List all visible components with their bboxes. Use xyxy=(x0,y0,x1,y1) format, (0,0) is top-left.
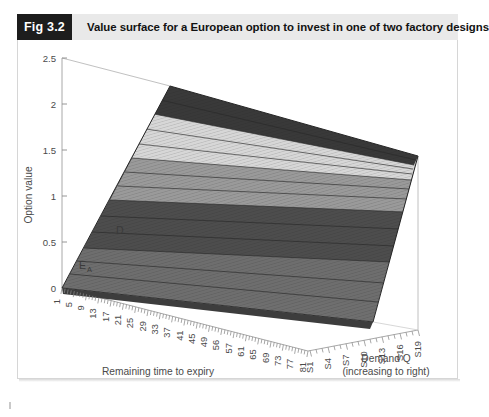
x-tick-1: 1 xyxy=(52,299,62,304)
annotation-ea-subscript: A xyxy=(87,265,92,274)
z-tick-2: 2 xyxy=(51,99,56,110)
x-tick-57: 57 xyxy=(224,343,234,353)
y-axis-title: Demand Q xyxy=(361,353,410,364)
x-tick-5: 5 xyxy=(64,302,74,307)
y-axis: S1S4S7S10S13S16S19 Demand Q (increasing … xyxy=(305,330,430,377)
x-tick-41: 41 xyxy=(175,331,185,341)
z-tick-1-5: 1.5 xyxy=(43,145,56,156)
x-tick-61: 61 xyxy=(236,346,246,356)
y-axis-subtitle: (increasing to right) xyxy=(342,366,429,377)
z-tick-1: 1 xyxy=(51,191,56,202)
figure-number-badge: Fig 3.2 xyxy=(17,14,72,40)
chart-plot-frame: 0 0.5 1 1.5 2 2.5 Option value xyxy=(17,40,458,379)
page-stray-mark xyxy=(9,402,11,409)
x-tick-21: 21 xyxy=(113,315,123,325)
figure-caption-bar: Fig 3.2 Value surface for a European opt… xyxy=(17,14,458,40)
x-tick-37: 37 xyxy=(162,327,172,337)
x-tick-56: 56 xyxy=(211,340,221,350)
annotation-ea: E xyxy=(79,259,86,271)
y-tick-S1: S1 xyxy=(305,362,315,373)
x-tick-77: 77 xyxy=(285,359,295,369)
surface-mesh xyxy=(62,86,418,322)
x-tick-9: 9 xyxy=(76,305,86,310)
figure-caption-text: Value surface for a European option to i… xyxy=(87,21,489,33)
y-tick-S4: S4 xyxy=(323,358,333,369)
z-tick-2-5: 2.5 xyxy=(43,53,56,64)
x-tick-45: 45 xyxy=(187,334,197,344)
x-tick-49: 49 xyxy=(199,337,209,347)
x-tick-33: 33 xyxy=(150,324,160,334)
x-axis-title: Remaining time to expiry xyxy=(102,366,215,377)
x-tick-69: 69 xyxy=(261,353,271,363)
x-tick-29: 29 xyxy=(138,321,148,331)
z-tick-0: 0 xyxy=(51,283,56,294)
annotation-d: D xyxy=(116,224,124,236)
surface-chart: 0 0.5 1 1.5 2 2.5 Option value xyxy=(18,40,458,379)
z-axis: 0 0.5 1 1.5 2 2.5 Option value xyxy=(23,53,67,294)
y-tick-S19: S19 xyxy=(413,341,423,358)
x-tick-65: 65 xyxy=(248,349,258,359)
value-surface xyxy=(62,86,418,329)
y-tick-S7: S7 xyxy=(341,355,351,366)
z-axis-title: Option value xyxy=(23,166,34,224)
x-tick-13: 13 xyxy=(88,308,98,318)
x-tick-25: 25 xyxy=(125,318,135,328)
z-tick-0-5: 0.5 xyxy=(43,237,56,248)
x-tick-17: 17 xyxy=(101,312,111,322)
frame-shadow xyxy=(19,379,460,382)
x-tick-73: 73 xyxy=(273,356,283,366)
